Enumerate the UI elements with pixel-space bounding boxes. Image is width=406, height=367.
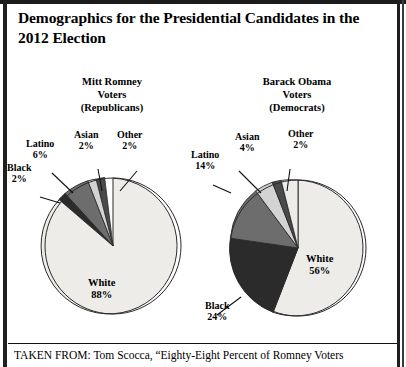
chart-romney-title-line1: Mitt Romney [27, 75, 197, 88]
romney-label-asian-name: Asian [74, 129, 98, 140]
obama-label-asian-pct: 4% [235, 142, 259, 153]
chart-romney-title: Mitt Romney Voters (Republicans) [27, 75, 197, 114]
romney-label-white-name: White [88, 277, 115, 288]
chart-obama-title: Barack Obama Voters (Democrats) [212, 75, 382, 114]
obama-label-other-pct: 2% [288, 139, 314, 150]
page-border-top [0, 0, 406, 4]
obama-label-latino-pct: 14% [191, 160, 219, 171]
figure-title: Demographics for the Presidential Candid… [18, 8, 370, 48]
source-divider [8, 343, 397, 344]
obama-label-asian-name: Asian [235, 131, 259, 142]
chart-romney-title-line3: (Republicans) [27, 101, 197, 114]
romney-label-black-pct: 2% [7, 173, 31, 184]
obama-callout-lines [169, 129, 379, 249]
obama-label-other: Other 2% [288, 128, 314, 150]
romney-label-black: Black 2% [7, 162, 31, 184]
romney-label-latino-pct: 6% [26, 149, 54, 160]
obama-label-white-pct: 56% [306, 265, 333, 277]
obama-label-latino-name: Latino [191, 149, 219, 160]
romney-label-white: White 88% [88, 277, 115, 301]
chart-obama-title-line2: Voters [212, 88, 382, 101]
obama-label-white-name: White [306, 253, 333, 264]
obama-label-white: White 56% [306, 253, 333, 277]
figure-container: Demographics for the Presidential Candid… [0, 0, 406, 367]
obama-label-black-pct: 24% [205, 311, 229, 322]
page-border-right [397, 0, 400, 367]
page-border-right-outer [402, 0, 404, 367]
obama-label-black-name: Black [205, 300, 229, 311]
romney-label-latino-name: Latino [26, 138, 54, 149]
romney-label-latino: Latino 6% [26, 138, 54, 160]
source-caption: TAKEN FROM: Tom Scocca, “Eighty-Eight Pe… [14, 349, 398, 363]
romney-label-other-pct: 2% [117, 140, 143, 151]
romney-label-black-name: Black [7, 162, 31, 173]
obama-label-black: Black 24% [205, 300, 229, 322]
romney-label-asian-pct: 2% [74, 140, 98, 151]
romney-label-white-pct: 88% [88, 289, 115, 301]
obama-label-other-name: Other [288, 128, 314, 139]
obama-label-latino: Latino 14% [191, 149, 219, 171]
chart-romney-title-line2: Voters [27, 88, 197, 101]
chart-obama-title-line1: Barack Obama [212, 75, 382, 88]
obama-label-asian: Asian 4% [235, 131, 259, 153]
romney-label-other-name: Other [117, 129, 143, 140]
chart-obama-title-line3: (Democrats) [212, 101, 382, 114]
chart-obama-pie [229, 179, 367, 317]
romney-label-asian: Asian 2% [74, 129, 98, 151]
romney-label-other: Other 2% [117, 129, 143, 151]
